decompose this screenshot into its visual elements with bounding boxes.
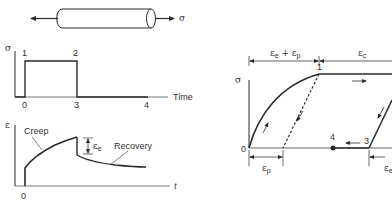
loading-curve [249, 74, 319, 148]
specimen: σ [31, 9, 185, 28]
creep-leader [32, 137, 42, 150]
stress-strain-plot: σ 0 1 4 3 εe + εp εc εp εe [235, 48, 392, 175]
specimen-stress-label: σ [179, 13, 185, 23]
unload-line [369, 100, 392, 148]
strain-time-plot: ε t 0 Creep Recovery εe [5, 120, 177, 201]
strain-tick-0: 0 [21, 191, 26, 201]
recovery-label: Recovery [114, 141, 153, 151]
elastic-strain-label: εe [93, 141, 102, 152]
top-dim-right-label: εc [358, 48, 367, 59]
stress-x-label: Time [173, 92, 193, 102]
stress-tick-3: 3 [74, 100, 79, 110]
stress-time-plot: σ 1 2 Time 0 3 4 [5, 43, 193, 110]
strain-x-label: t [174, 180, 177, 191]
creep-label: Creep [24, 126, 49, 136]
top-dim-left-label: εe + εp [270, 48, 301, 60]
ss-point-1: 1 [317, 62, 322, 72]
cylinder-body [57, 9, 151, 28]
ss-point-4: 4 [330, 132, 335, 142]
creep-recovery-diagram: σ σ 1 2 Time 0 3 4 ε t 0 Creep Recovery … [0, 0, 392, 206]
ss-y-label: σ [235, 75, 241, 85]
bottom-dim-right-label: εe [384, 163, 392, 174]
strain-y-label: ε [5, 120, 10, 130]
stress-y-label: σ [5, 43, 11, 53]
stress-tick-4: 4 [144, 100, 149, 110]
loading-arrow [263, 123, 268, 133]
recovery-leader [110, 151, 128, 165]
stress-point-2: 2 [73, 48, 78, 58]
stress-tick-0: 0 [22, 100, 27, 110]
stress-pulse [15, 61, 148, 97]
ss-point-4-dot [331, 146, 336, 151]
stress-point-1: 1 [22, 48, 27, 58]
unload-arrow [378, 107, 384, 118]
ss-origin-label: 0 [241, 144, 246, 154]
bottom-dim-left-label: εp [262, 163, 271, 175]
cylinder-end-face [147, 9, 156, 28]
ss-point-3: 3 [364, 136, 369, 146]
elastic-unload-dashed [283, 74, 319, 148]
creep-curve [25, 137, 77, 186]
